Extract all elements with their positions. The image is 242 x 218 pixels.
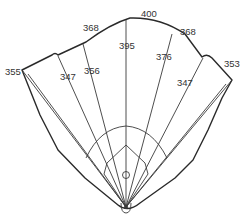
label-left-field: 347 [60,71,76,82]
label-right-field-line: 353 [224,58,240,69]
ballpark-diagram: 355 347 368 356 400 395 376 368 347 353 [0,0,242,218]
label-center: 395 [119,40,135,51]
label-left-center-fence: 368 [83,22,99,33]
label-right-center: 376 [156,51,172,62]
infield-arc [86,126,167,158]
label-center-deep: 400 [141,8,157,19]
home-plate [124,205,128,209]
label-left-center: 356 [84,65,100,76]
left-foul-line-inner [28,74,126,207]
label-right-field: 347 [177,77,193,88]
right-foul-line-inner [126,84,226,207]
label-left-field-line: 355 [5,66,21,77]
label-right-center-fence: 368 [180,26,196,37]
